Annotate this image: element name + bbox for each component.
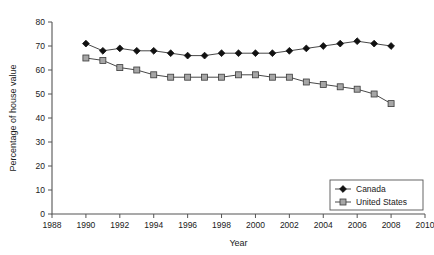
series-canada — [83, 38, 395, 59]
data-point — [269, 74, 275, 80]
legend-label: Canada — [356, 184, 386, 194]
x-tick-label-2006: 2006 — [348, 220, 367, 230]
y-tick-label-60: 60 — [36, 65, 46, 75]
y-tick-label-40: 40 — [36, 113, 46, 123]
series-united-states — [83, 55, 394, 107]
data-point — [337, 40, 344, 47]
y-axis-title: Percentage of house value — [8, 64, 18, 171]
x-tick-label-2000: 2000 — [246, 220, 265, 230]
data-point — [252, 72, 258, 78]
y-tick-label-80: 80 — [36, 17, 46, 27]
x-tick-label-1992: 1992 — [110, 220, 129, 230]
data-point — [99, 47, 106, 54]
data-point — [185, 74, 191, 80]
data-point — [252, 50, 259, 57]
data-point — [269, 50, 276, 57]
data-point — [117, 65, 123, 71]
data-point — [388, 43, 395, 50]
chart-container: 01020304050607080 1988199019921994199619… — [0, 0, 434, 255]
y-tick-label-0: 0 — [40, 209, 45, 219]
data-point — [371, 40, 378, 47]
x-tick-label-1994: 1994 — [144, 220, 163, 230]
data-point — [100, 57, 106, 63]
y-tick-label-50: 50 — [36, 89, 46, 99]
data-series-layer — [83, 38, 395, 107]
x-tick-label-1998: 1998 — [212, 220, 231, 230]
y-tick-label-20: 20 — [36, 161, 46, 171]
x-tick-label-1990: 1990 — [76, 220, 95, 230]
data-point — [219, 74, 225, 80]
data-point — [151, 72, 157, 78]
data-point — [286, 74, 292, 80]
y-axis-tick-labels: 01020304050607080 — [36, 17, 46, 219]
data-point — [354, 38, 361, 45]
x-axis-title: Year — [229, 238, 247, 248]
x-tick-label-2008: 2008 — [382, 220, 401, 230]
data-point — [337, 84, 343, 90]
data-point — [320, 43, 327, 50]
data-point — [303, 79, 309, 85]
x-tick-label-2002: 2002 — [280, 220, 299, 230]
data-point — [167, 50, 174, 57]
data-point — [388, 101, 394, 107]
series-line — [86, 58, 391, 104]
chart-legend[interactable]: CanadaUnited States — [330, 180, 423, 210]
x-tick-label-2004: 2004 — [314, 220, 333, 230]
data-point — [320, 81, 326, 87]
data-point — [184, 52, 191, 59]
data-point — [286, 47, 293, 54]
x-tick-label-1988: 1988 — [43, 220, 62, 230]
x-tick-label-1996: 1996 — [178, 220, 197, 230]
data-point — [354, 86, 360, 92]
line-chart: 01020304050607080 1988199019921994199619… — [0, 0, 434, 255]
data-point — [218, 50, 225, 57]
data-point — [202, 74, 208, 80]
y-tick-label-10: 10 — [36, 185, 46, 195]
x-tick-label-2010: 2010 — [416, 220, 434, 230]
y-tick-label-30: 30 — [36, 137, 46, 147]
data-point — [201, 52, 208, 59]
data-point — [235, 50, 242, 57]
data-point — [134, 67, 140, 73]
data-point — [371, 91, 377, 97]
data-point — [303, 45, 310, 52]
x-axis-tick-labels: 1988199019921994199619982000200220042006… — [43, 220, 434, 230]
legend-label: United States — [356, 197, 407, 207]
data-point — [83, 55, 89, 61]
legend-marker — [340, 199, 346, 205]
data-point — [133, 47, 140, 54]
data-point — [150, 47, 157, 54]
data-point — [236, 72, 242, 78]
data-point — [168, 74, 174, 80]
legend-item-canada[interactable]: Canada — [335, 184, 386, 194]
data-point — [83, 40, 90, 47]
data-point — [116, 45, 123, 52]
y-tick-label-70: 70 — [36, 41, 46, 51]
